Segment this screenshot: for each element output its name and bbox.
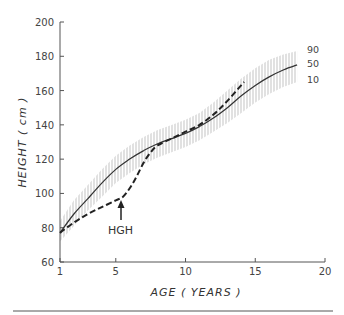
y-axis-title: HEIGHT ( cm )	[16, 97, 29, 188]
y-tick-label: 180	[35, 51, 54, 62]
y-tick-label: 120	[35, 154, 54, 165]
x-tick-label: 20	[319, 266, 332, 277]
y-tick-label: 100	[35, 188, 54, 199]
percentile-band	[60, 51, 297, 241]
x-ticks: 15101520	[57, 258, 332, 277]
percentile-10-label: 10	[307, 74, 319, 85]
x-tick-label: 1	[57, 266, 63, 277]
x-tick-label: 15	[249, 266, 262, 277]
percentile-50-label: 50	[307, 58, 319, 69]
x-tick-label: 5	[113, 266, 119, 277]
x-axis-title: AGE ( YEARS )	[150, 286, 242, 299]
growth-chart: 6080100120140160180200 15101520 HGH 90 5…	[0, 0, 344, 315]
hgh-label: HGH	[108, 224, 133, 237]
y-tick-label: 160	[35, 86, 54, 97]
y-tick-label: 200	[35, 17, 54, 28]
y-tick-label: 140	[35, 120, 54, 131]
x-tick-label: 10	[179, 266, 192, 277]
y-tick-label: 60	[41, 257, 54, 268]
hgh-arrow-icon	[118, 200, 125, 220]
y-tick-label: 80	[41, 223, 54, 234]
percentile-90-label: 90	[307, 44, 319, 55]
